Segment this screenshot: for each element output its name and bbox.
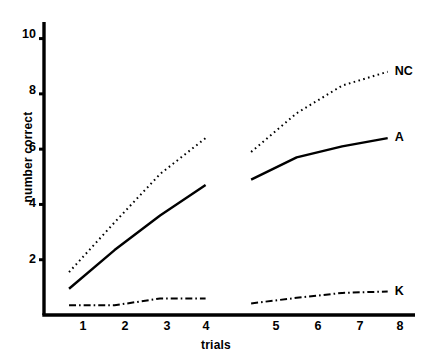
x-tick-label: 6 xyxy=(308,319,328,333)
series-line-k xyxy=(69,298,206,305)
y-axis-title: number correct xyxy=(21,102,35,212)
x-tick-label: 4 xyxy=(196,319,216,333)
series-line-a xyxy=(69,185,206,289)
x-axis-title: trials xyxy=(176,338,256,352)
series-label-a: A xyxy=(395,130,404,144)
x-tick-label: 8 xyxy=(390,319,410,333)
series-line-a xyxy=(251,138,388,179)
series-line-nc xyxy=(251,72,388,152)
series-line-k xyxy=(251,292,388,304)
x-tick-label: 7 xyxy=(350,319,370,333)
y-tick-label: 8 xyxy=(12,83,36,97)
y-tick-label: 2 xyxy=(12,252,36,266)
y-tick-label: 10 xyxy=(12,27,36,41)
x-tick-label: 1 xyxy=(73,319,93,333)
x-tick-label: 3 xyxy=(157,319,177,333)
series-layer xyxy=(69,72,388,306)
x-tick-label: 2 xyxy=(115,319,135,333)
figure: 10 8 6 4 2 1 2 3 4 5 6 7 8 number correc… xyxy=(0,0,432,360)
series-label-k: K xyxy=(395,284,404,298)
series-line-nc xyxy=(69,138,206,272)
chart-canvas xyxy=(0,0,432,360)
series-label-nc: NC xyxy=(395,64,413,78)
x-tick-label: 5 xyxy=(266,319,286,333)
